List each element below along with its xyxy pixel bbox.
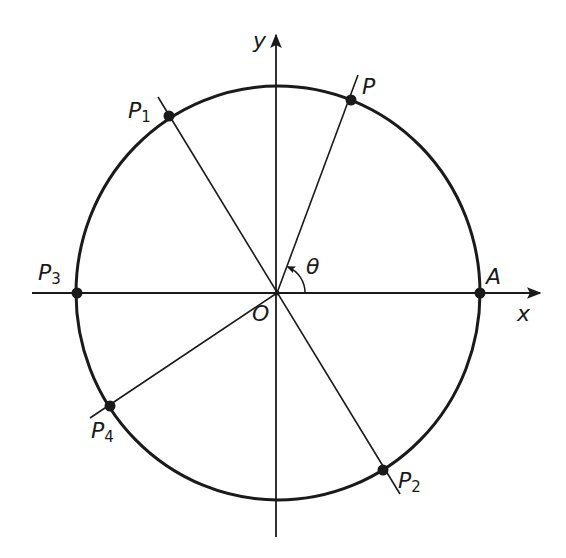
point-P bbox=[346, 95, 357, 106]
x-axis-label: x bbox=[517, 303, 530, 325]
ray-OP4 bbox=[90, 293, 277, 418]
origin-label: O bbox=[252, 303, 269, 325]
point-P3 bbox=[72, 288, 83, 299]
theta-arc bbox=[288, 267, 305, 293]
origin-dot bbox=[275, 291, 280, 296]
theta-label: θ bbox=[306, 256, 319, 278]
label-P4: P4 bbox=[91, 420, 114, 442]
label-A: A bbox=[486, 266, 501, 288]
label-P1: P1 bbox=[128, 100, 151, 122]
diagram-svg bbox=[0, 0, 566, 558]
point-P4 bbox=[105, 401, 116, 412]
y-axis-label: y bbox=[253, 30, 266, 52]
label-P: P bbox=[362, 76, 375, 98]
point-A bbox=[475, 288, 486, 299]
ray-P1-P2 bbox=[158, 97, 400, 494]
diagram-canvas: y x O θ A P P1 P2 P3 P4 bbox=[0, 0, 566, 558]
point-P2 bbox=[378, 465, 389, 476]
label-P2: P2 bbox=[398, 470, 421, 492]
label-P3: P3 bbox=[38, 262, 61, 284]
point-P1 bbox=[164, 111, 175, 122]
